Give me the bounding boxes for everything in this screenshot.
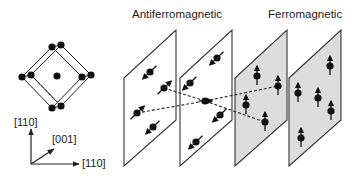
axis-depth-label: [001]: [52, 134, 76, 145]
atom: [149, 123, 156, 130]
atom: [242, 101, 249, 108]
axis-vertical-label: [110]: [14, 117, 38, 128]
atom: [297, 134, 304, 141]
atom: [261, 118, 268, 125]
atom: [216, 111, 223, 118]
atom: [192, 138, 199, 145]
atom: [294, 89, 301, 96]
atom: [201, 97, 208, 104]
atom: [314, 94, 321, 101]
magnetic-ordering-diagram: [0, 0, 357, 182]
antiferromagnetic-title: Antiferromagnetic: [132, 9, 222, 21]
atom: [213, 54, 220, 61]
atom: [186, 79, 193, 86]
atom: [327, 107, 334, 114]
plane-afm-1: [124, 30, 176, 166]
atom: [326, 62, 333, 69]
plane-fm-1: [235, 30, 287, 166]
atom: [274, 82, 281, 89]
ferromagnetic-title: Ferromagnetic: [268, 9, 342, 21]
atom: [253, 72, 260, 79]
axis-depth: [31, 149, 54, 164]
axis-horizontal-label: [110]: [82, 158, 106, 169]
atom: [133, 109, 140, 116]
atom: [160, 84, 167, 91]
atom: [146, 68, 153, 75]
